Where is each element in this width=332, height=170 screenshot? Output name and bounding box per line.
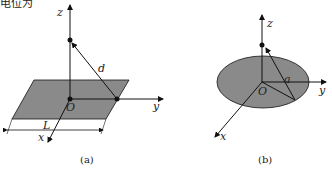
y-label: y: [152, 100, 160, 113]
x-label: x: [38, 131, 45, 144]
point-charge-b: [260, 43, 265, 48]
z-label: z: [56, 6, 63, 19]
origin-label: O: [66, 101, 75, 114]
point-charge: [68, 38, 73, 43]
distance-label: d: [98, 62, 105, 75]
x-label-b: x: [220, 130, 227, 143]
origin-label-b: O: [258, 85, 267, 98]
caption-a: (a): [80, 154, 94, 165]
figure-b: z y x O a (b): [215, 15, 326, 165]
radius-label: a: [284, 73, 291, 86]
plane-point: [115, 97, 120, 102]
z-label-b: z: [266, 17, 273, 30]
figure: z y x O d L (a) z y x O a (b): [0, 0, 332, 170]
figure-a: z y x O d L (a): [7, 5, 163, 165]
caption-b: (b): [258, 154, 272, 165]
length-label: L: [42, 119, 50, 132]
y-label-b: y: [318, 84, 326, 97]
